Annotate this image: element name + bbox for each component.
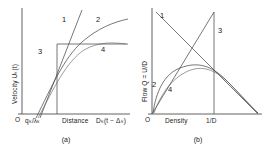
curve-3-b [152, 12, 214, 114]
x-tick-label-a: qₖ/λₖ [25, 117, 40, 125]
curve-label-1-a: 1 [62, 15, 66, 24]
origin-label-a: O [15, 116, 20, 123]
x-axis-title-word-a: Distance [62, 117, 89, 124]
panel-a-plot: 1 2 3 4 [0, 0, 132, 132]
x-axis-title-symbol-b: 1/D [206, 117, 217, 124]
curve-label-4-b: 4 [168, 85, 172, 94]
curve-label-4-a: 4 [101, 45, 105, 54]
curve-2-a [36, 19, 128, 118]
curve-4-a [38, 43, 126, 118]
curve-1-b [156, 12, 258, 114]
panel-b: 1 2 3 4 O Density 1/D Flow Q = U/D (b) [132, 0, 264, 154]
curve-label-2-a: 2 [96, 15, 100, 24]
x-axis-title-symbol-a: Dₖ(t − Δₖ) [96, 117, 126, 125]
y-axis-title-a: Velocity Uₖ(t) [11, 64, 19, 104]
panel-a: 1 2 3 4 O qₖ/λₖ Distance Dₖ(t − Δₖ) Velo… [0, 0, 132, 154]
curve-label-3-b: 3 [218, 26, 222, 35]
curve-3-a [57, 44, 128, 114]
caption-b: (b) [132, 136, 264, 143]
caption-a: (a) [0, 136, 132, 143]
curve-label-1-b: 1 [160, 11, 164, 20]
x-axis-title-word-b: Density [165, 117, 188, 124]
two-panel-figure: 1 2 3 4 O qₖ/λₖ Distance Dₖ(t − Δₖ) Velo… [0, 0, 264, 154]
origin-label-b: O [145, 116, 150, 123]
panel-b-plot: 1 2 3 4 [132, 0, 264, 132]
curve-label-2-b: 2 [152, 80, 156, 89]
curve-label-3-a: 3 [38, 47, 42, 56]
y-axis-title-b: Flow Q = U/D [141, 61, 148, 102]
